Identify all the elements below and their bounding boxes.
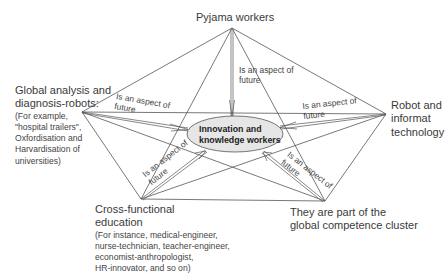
node-competence-cluster: They are part of the global competence c… bbox=[290, 206, 418, 233]
node-cross-detail1: (For instance, medical-engineer, bbox=[95, 230, 230, 241]
node-global-detail4: Harvardisation of bbox=[15, 144, 111, 155]
node-cross-detail3: economist-anthropologist, bbox=[95, 252, 230, 263]
node-global-detail1: (For example, bbox=[15, 111, 111, 122]
node-global-detail2: "hospital trailers", bbox=[15, 122, 111, 133]
edge-label-top: Is an aspect of future bbox=[239, 66, 293, 85]
node-robot-line2: informat bbox=[391, 112, 444, 125]
node-robot-technology: Robot and informat technology bbox=[391, 99, 444, 139]
node-global-line1: Global analysis and bbox=[15, 84, 111, 97]
node-robot-line1: Robot and bbox=[391, 99, 444, 112]
node-robot-line3: technology bbox=[391, 126, 444, 139]
center-label-line1: Innovation and bbox=[199, 124, 281, 135]
center-label-line2: knowledge workers bbox=[199, 135, 281, 146]
node-cross-line2: education bbox=[95, 216, 230, 229]
node-cross-detail2: nurse-technician, teacher-engineer, bbox=[95, 241, 230, 252]
node-cluster-line2: global competence cluster bbox=[290, 219, 418, 232]
node-global-analysis: Global analysis and diagnosis-robots: (F… bbox=[15, 84, 111, 167]
node-cross-line1: Cross-functional bbox=[95, 203, 230, 216]
edge-label-top-line2: future bbox=[239, 76, 293, 86]
node-global-line2: diagnosis-robots: bbox=[15, 97, 111, 110]
node-cross-detail4: HR-innovator, and so on) bbox=[95, 263, 230, 274]
node-pyjama-title: Pyjama workers bbox=[196, 11, 274, 23]
node-cross-functional: Cross-functional education (For instance… bbox=[95, 203, 230, 275]
node-global-detail3: Oxfordisation and bbox=[15, 133, 111, 144]
center-label: Innovation and knowledge workers bbox=[199, 124, 281, 147]
node-global-detail5: universities) bbox=[15, 156, 111, 167]
node-pyjama-workers: Pyjama workers bbox=[196, 11, 274, 24]
node-cluster-line1: They are part of the bbox=[290, 206, 418, 219]
